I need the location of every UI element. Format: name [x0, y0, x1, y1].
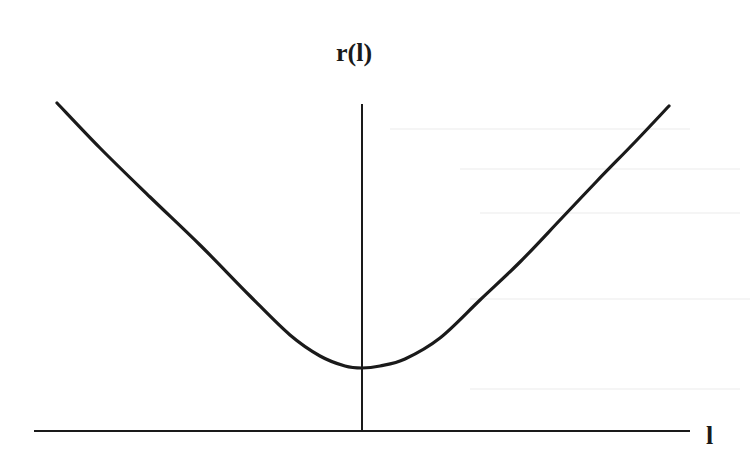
y-axis-label: r(l)	[336, 38, 372, 68]
x-axis-label: l	[706, 421, 713, 451]
figure: r(l) l	[0, 0, 750, 467]
plot-canvas	[0, 0, 750, 467]
